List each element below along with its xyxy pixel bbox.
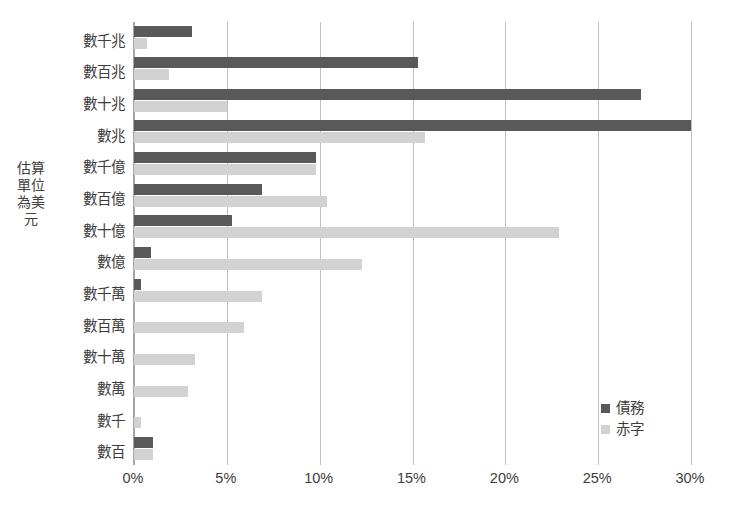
bar-debt bbox=[134, 152, 316, 163]
bar-chart: 估算單位為美元 數千兆數百兆數十兆數兆數千億數百億數十億數億數千萬數百萬數十萬數… bbox=[0, 0, 733, 521]
bar-group bbox=[134, 310, 690, 342]
bar-group bbox=[134, 152, 690, 184]
bar-deficit bbox=[134, 322, 244, 333]
bar-deficit bbox=[134, 449, 153, 460]
bar-deficit bbox=[134, 132, 425, 143]
y-axis-label: 數萬 bbox=[0, 377, 125, 398]
bar-deficit bbox=[134, 354, 195, 365]
x-axis-label: 20% bbox=[490, 470, 519, 486]
y-axis-label: 數兆 bbox=[0, 124, 125, 145]
legend-item: 赤字 bbox=[601, 419, 644, 440]
legend-label: 債務 bbox=[616, 398, 644, 419]
bar-group bbox=[134, 247, 690, 279]
bar-group bbox=[134, 120, 690, 152]
bar-group bbox=[134, 89, 690, 121]
bar-deficit bbox=[134, 291, 262, 302]
bar-group bbox=[134, 279, 690, 311]
bar-deficit bbox=[134, 101, 227, 112]
bar-group bbox=[134, 57, 690, 89]
x-axis-label: 5% bbox=[215, 470, 236, 486]
y-axis-label: 數億 bbox=[0, 250, 125, 271]
bar-debt bbox=[134, 26, 192, 37]
x-axis-label: 30% bbox=[675, 470, 704, 486]
bar-deficit bbox=[134, 386, 188, 397]
y-axis-label: 數百 bbox=[0, 440, 125, 461]
y-axis-label: 數十萬 bbox=[0, 345, 125, 366]
x-axis-label: 0% bbox=[123, 470, 144, 486]
bar-debt bbox=[134, 89, 641, 100]
legend-swatch-icon bbox=[601, 404, 610, 413]
bar-debt bbox=[134, 57, 418, 68]
legend-swatch-icon bbox=[601, 425, 610, 434]
y-axis-label: 數千兆 bbox=[0, 29, 125, 50]
chart-legend: 債務赤字 bbox=[601, 398, 644, 440]
y-axis-label: 數千萬 bbox=[0, 282, 125, 303]
bar-deficit bbox=[134, 259, 362, 270]
x-axis-label: 15% bbox=[397, 470, 426, 486]
x-axis-tick-labels: 0%5%10%15%20%25%30% bbox=[0, 470, 733, 500]
bar-debt bbox=[134, 279, 141, 290]
bar-deficit bbox=[134, 164, 316, 175]
bar-deficit bbox=[134, 38, 147, 49]
y-axis-label: 數百兆 bbox=[0, 60, 125, 81]
y-axis-title: 估算單位為美元 bbox=[14, 160, 48, 228]
legend-label: 赤字 bbox=[616, 419, 644, 440]
bar-group bbox=[134, 215, 690, 247]
bar-deficit bbox=[134, 69, 169, 80]
bar-deficit bbox=[134, 417, 141, 428]
bar-group bbox=[134, 184, 690, 216]
gridline-30% bbox=[691, 22, 692, 465]
x-axis-label: 25% bbox=[583, 470, 612, 486]
x-axis-label: 10% bbox=[304, 470, 333, 486]
y-axis-label: 數十兆 bbox=[0, 92, 125, 113]
y-axis-label: 數千 bbox=[0, 409, 125, 430]
bar-debt bbox=[134, 247, 151, 258]
legend-item: 債務 bbox=[601, 398, 644, 419]
bar-debt bbox=[134, 184, 262, 195]
y-axis-label: 數百萬 bbox=[0, 314, 125, 335]
bar-debt bbox=[134, 437, 153, 448]
bar-group bbox=[134, 26, 690, 58]
bar-deficit bbox=[134, 227, 559, 238]
bar-group bbox=[134, 437, 690, 469]
bar-group bbox=[134, 342, 690, 374]
bar-debt bbox=[134, 120, 691, 131]
bar-debt bbox=[134, 215, 232, 226]
bar-deficit bbox=[134, 196, 327, 207]
